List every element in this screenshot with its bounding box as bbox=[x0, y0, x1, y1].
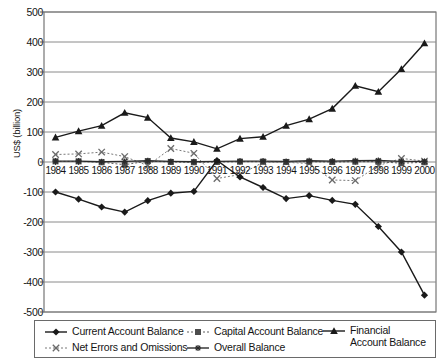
x-axis-tick-label: 1991 bbox=[205, 166, 228, 176]
x-axis-tick-label: 1989 bbox=[159, 166, 182, 176]
legend-marker-diamond-icon bbox=[43, 326, 69, 338]
x-axis-tick-label: 1988 bbox=[136, 166, 159, 176]
chart-legend: Current Account BalanceCapital Account B… bbox=[34, 320, 436, 358]
legend-label: Current Account Balance bbox=[72, 326, 184, 338]
x-axis-tick-label: 1986 bbox=[90, 166, 113, 176]
legend-item-capital-account-balance[interactable]: Capital Account Balance bbox=[185, 326, 323, 338]
plot-area bbox=[0, 0, 443, 362]
x-axis-tick-label: 1990 bbox=[182, 166, 205, 176]
x-axis-tick-label: 1985 bbox=[67, 166, 90, 176]
x-axis-tick-label: 1999 bbox=[390, 166, 413, 176]
x-axis-tick-label: 1984 bbox=[44, 166, 67, 176]
x-axis-tick-label: 2000 bbox=[413, 166, 436, 176]
x-axis-tick-label: 1993 bbox=[252, 166, 275, 176]
legend-label: Net Errors and Omissions bbox=[72, 342, 187, 354]
x-axis-tick-label: 1997 bbox=[344, 166, 367, 176]
x-axis-tick-label: 1998 bbox=[367, 166, 390, 176]
x-axis-tick-label: 1987 bbox=[113, 166, 136, 176]
legend-marker-triangle-icon bbox=[321, 325, 347, 337]
x-axis-tick-label: 1996 bbox=[321, 166, 344, 176]
legend-marker-star-icon bbox=[185, 342, 211, 354]
x-axis-tick-label: 1995 bbox=[298, 166, 321, 176]
legend-marker-x-icon bbox=[43, 342, 69, 354]
legend-label: Capital Account Balance bbox=[214, 326, 323, 338]
line-chart: US$ (billion) 5004003002001000-100-200-3… bbox=[0, 0, 443, 362]
legend-label: Financial Account Balance bbox=[350, 325, 428, 348]
legend-item-overall-balance[interactable]: Overall Balance bbox=[185, 342, 285, 354]
legend-item-financial-account-balance[interactable]: Financial Account Balance bbox=[321, 325, 428, 348]
legend-item-current-account-balance[interactable]: Current Account Balance bbox=[43, 326, 184, 338]
legend-marker-square-icon bbox=[185, 326, 211, 338]
legend-item-net-errors-and-omissions[interactable]: Net Errors and Omissions bbox=[43, 342, 187, 354]
x-axis-tick-label: 1994 bbox=[275, 166, 298, 176]
legend-label: Overall Balance bbox=[214, 342, 285, 354]
x-axis-tick-label: 1992 bbox=[228, 166, 251, 176]
